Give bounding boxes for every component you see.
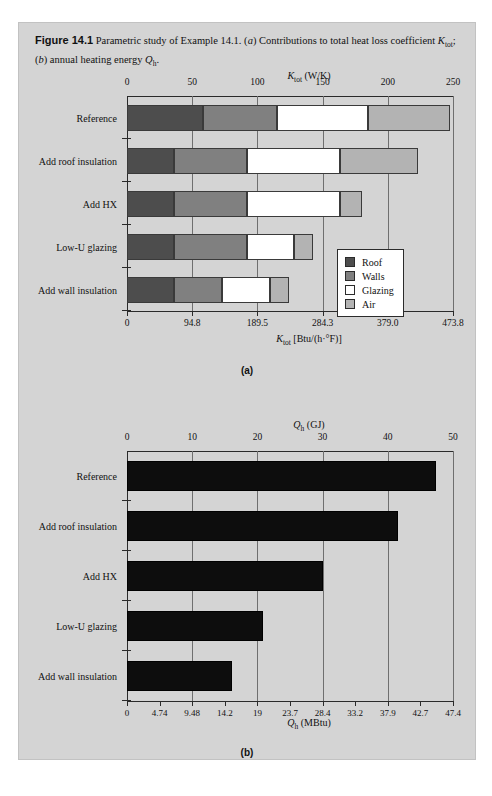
chart-b-bar: [127, 561, 323, 591]
chart-a-bottom-tick-label: 379.0: [377, 318, 398, 328]
chart-b-category-tick: [122, 700, 131, 701]
chart-a-bar-group: [127, 105, 453, 131]
chart-a-bar-segment-walls: [174, 191, 247, 217]
chart-a-bar-segment-glazing: [222, 277, 270, 303]
chart-a-category-tick: [122, 310, 131, 311]
chart-a-bar-segment-air: [294, 234, 314, 260]
chart-b-bottom-tick: [160, 701, 161, 706]
chart-a-legend-row: Roof: [345, 255, 394, 269]
chart-b-bottom-tick-label: 28.4: [315, 708, 331, 718]
chart-a-bar-segment-roof: [127, 148, 174, 174]
chart-a-bar-segment-air: [340, 191, 362, 217]
chart-b-category-tick: [122, 650, 131, 651]
chart-a-bar-segment-glazing: [247, 148, 340, 174]
chart-b-top-tick-label: 30: [318, 432, 328, 442]
chart-a-bar-segment-air: [270, 277, 288, 303]
chart-a-bar-group: [127, 191, 453, 217]
chart-b-top-axis-line: [127, 451, 454, 452]
chart-a-bottom-tick: [257, 311, 258, 316]
chart-a-plot-area: [19, 23, 475, 313]
chart-b-bar: [127, 511, 398, 541]
figure-page: Figure 14.1 Parametric study of Example …: [0, 0, 492, 796]
chart-a-bar-segment-walls: [174, 234, 247, 260]
chart-b-top-tick-label: 0: [125, 432, 130, 442]
chart-a-bar-segment-glazing: [277, 105, 368, 131]
chart-b-top-tick-label: 20: [253, 432, 263, 442]
chart-b-bottom-tick-label: 14.2: [217, 708, 233, 718]
chart-b-bottom-tick-label: 4.74: [152, 708, 168, 718]
chart-b-category-label: Add roof insulation: [19, 521, 117, 532]
chart-b-bottom-tick: [420, 701, 421, 706]
chart-a-category-label: Add HX: [19, 198, 117, 209]
chart-b-bottom-tick: [192, 701, 193, 706]
chart-a-legend-row: Glazing: [345, 283, 394, 297]
chart-b-bottom-tick-label: 47.4: [445, 708, 461, 718]
chart-a-bar-group: [127, 234, 453, 260]
axis-unit: [Btu/(h·°F)]: [291, 333, 342, 344]
chart-b-top-tick-label: 50: [448, 432, 458, 442]
chart-a-bar-segment-air: [368, 105, 450, 131]
chart-b-bar: [127, 461, 436, 491]
chart-a-bottom-tick: [323, 311, 324, 316]
panel-b-label: (b): [241, 747, 254, 758]
chart-a-legend-label: Air: [362, 299, 375, 310]
chart-a-top-tick-label: 150: [315, 77, 329, 87]
chart-b-category-label: Reference: [19, 471, 117, 482]
chart-b-bottom-tick-label: 23.7: [282, 708, 298, 718]
chart-a-top-tick-label: 0: [125, 77, 130, 87]
chart-a-gridline: [453, 96, 454, 311]
chart-a-legend-swatch: [345, 285, 355, 295]
chart-b-bottom-tick: [290, 701, 291, 706]
chart-a-legend-label: Glazing: [362, 285, 394, 296]
chart-a-bar-segment-glazing: [247, 234, 294, 260]
chart-a-bar-segment-roof: [127, 105, 203, 131]
chart-a-bar-segment-air: [340, 148, 418, 174]
panel-a-label: (a): [241, 365, 253, 376]
chart-a-bottom-tick-label: 189.5: [247, 318, 268, 328]
chart-a-category-tick: [122, 224, 131, 225]
chart-a-top-tick-label: 100: [250, 77, 264, 87]
chart-b-bottom-tick: [257, 701, 258, 706]
chart-a-bar-segment-roof: [127, 234, 174, 260]
chart-a-legend-row: Walls: [345, 269, 394, 283]
chart-b-top-tick-label: 10: [187, 432, 197, 442]
chart-a-category-tick: [122, 267, 131, 268]
chart-a-legend: RoofWallsGlazingAir: [337, 249, 404, 317]
chart-a-legend-row: Air: [345, 297, 394, 311]
chart-a-bar-group: [127, 148, 453, 174]
chart-b-category-tick: [122, 550, 131, 551]
chart-a-top-axis-line: [127, 96, 454, 97]
chart-a-legend-swatch: [345, 257, 355, 267]
axis-symbol-sub: tot: [283, 338, 291, 347]
chart-a-bar-segment-glazing: [247, 191, 340, 217]
chart-b-bottom-tick-label: 9.48: [184, 708, 200, 718]
chart-a-bottom-tick-label: 284.3: [312, 318, 333, 328]
chart-a-bar-segment-roof: [127, 191, 174, 217]
chart-a-bottom-axis-line: [127, 311, 454, 312]
chart-b-bottom-tick-label: 19: [253, 708, 262, 718]
chart-a-bar-segment-roof: [127, 277, 174, 303]
axis-symbol: K: [276, 333, 283, 344]
chart-a-category-label: Add roof insulation: [19, 155, 117, 166]
chart-a-legend-label: Roof: [362, 257, 382, 268]
chart-b-annual-heating-energy: Qh (GJ) Qh (MBtu) (b) 0102030405004.749.…: [19, 411, 475, 741]
chart-b-bottom-tick-label: 42.7: [413, 708, 429, 718]
chart-a-top-tick-label: 200: [381, 77, 395, 87]
chart-a-bottom-tick-label: 473.8: [442, 318, 463, 328]
chart-a-legend-swatch: [345, 299, 355, 309]
chart-b-bottom-tick: [127, 701, 128, 706]
chart-b-bottom-tick-label: 0: [125, 708, 130, 718]
chart-a-top-tick-label: 250: [446, 77, 460, 87]
chart-a-bar-group: [127, 277, 453, 303]
chart-b-category-label: Low-U glazing: [19, 621, 117, 632]
chart-b-plot-area: [19, 411, 475, 701]
chart-b-bottom-tick: [453, 701, 454, 706]
chart-a-category-label: Reference: [19, 112, 117, 123]
chart-b-bottom-tick-label: 33.2: [347, 708, 363, 718]
chart-b-bottom-tick: [388, 701, 389, 706]
chart-a-bar-segment-walls: [174, 148, 247, 174]
chart-a-legend-label: Walls: [362, 271, 385, 282]
chart-a-legend-swatch: [345, 271, 355, 281]
chart-a-bottom-tick: [453, 311, 454, 316]
chart-a-bottom-axis-title: Ktot [Btu/(h·°F)]: [276, 333, 342, 347]
